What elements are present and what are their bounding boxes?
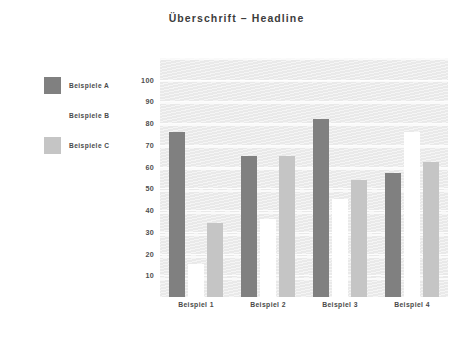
x-axis-tick-label: Beispiel 4 [376,301,448,308]
y-axis-tick-label: 40 [128,206,154,215]
y-axis-tick-label: 50 [128,184,154,193]
bar [188,264,204,297]
bar [404,132,420,297]
legend-item-label: Beispiele A [69,82,109,89]
y-axis-tick-label: 30 [128,228,154,237]
y-axis-tick-label: 70 [128,141,154,150]
x-axis-tick-label: Beispiel 1 [160,301,232,308]
legend-item-label: Beispiele C [69,142,110,149]
gridline [160,80,448,81]
y-axis-tick-label: 100 [128,76,154,85]
chart-title: Überschrift – Headline [0,12,473,24]
legend-swatch-icon [44,77,61,94]
y-axis-tick-label: 20 [128,250,154,259]
y-axis-tick-label: 80 [128,119,154,128]
plot-area [160,58,448,297]
y-axis-tick-label: 10 [128,271,154,280]
bar [169,132,185,297]
legend-swatch-icon [44,137,61,154]
bar [241,156,257,297]
gridline [160,101,448,102]
bar [260,219,276,297]
bar [207,223,223,297]
legend-item-beispiele-a[interactable]: Beispiele A [44,70,148,100]
chart-figure: Überschrift – Headline Beispiele A Beisp… [0,0,473,338]
x-axis-tick-label: Beispiel 2 [232,301,304,308]
bar [332,199,348,297]
y-axis-tick-label: 60 [128,163,154,172]
y-axis-tick-label: 90 [128,97,154,106]
bar [385,173,401,297]
x-axis-tick-label: Beispiel 3 [304,301,376,308]
bar [423,162,439,297]
legend-item-label: Beispiele B [69,112,110,119]
bar [313,119,329,297]
gridline [160,123,448,124]
legend-swatch-icon [44,107,61,124]
bar [279,156,295,297]
bar [351,180,367,297]
